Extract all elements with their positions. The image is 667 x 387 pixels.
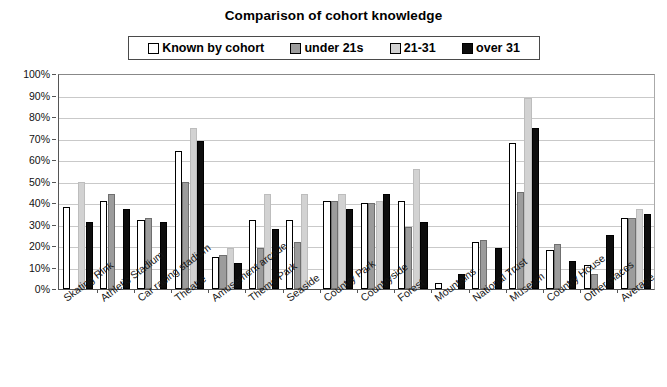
legend-item-label: over 31 [476,41,520,55]
y-axis-tick-label: 10% [29,262,50,274]
chart-title: Comparison of cohort knowledge [0,8,667,23]
y-axis-tick-mark [52,289,56,290]
bar [63,207,70,289]
bar [137,220,144,289]
y-axis-tick-mark [52,182,56,183]
legend-item-2[interactable]: 21-31 [390,41,436,55]
x-axis-tick-mark [506,289,507,293]
bar-group [398,74,430,289]
bar [249,220,256,289]
y-axis-tick-mark [52,117,56,118]
bar [197,141,204,289]
x-axis-labels: Skating RinkAthletic StadiumCar racing s… [0,294,667,387]
chart-legend: Known by cohortunder 21s21-31over 31 [128,36,540,60]
bar [323,201,330,289]
bar [413,169,420,289]
y-axis-tick-label: 30% [29,219,50,231]
x-axis-tick-mark [543,289,544,293]
legend-swatch-icon [462,43,473,54]
y-axis-tick-mark [52,246,56,247]
bar [212,257,219,289]
bar-group [212,74,244,289]
bar [532,128,539,289]
y-axis-tick-label: 90% [29,90,50,102]
y-axis-tick-mark [52,74,56,75]
bar-group [509,74,541,289]
x-axis-tick-mark [97,289,98,293]
y-axis-tick-mark [52,225,56,226]
y-axis-tick-label: 40% [29,197,50,209]
bar-group [435,74,467,289]
legend-item-3[interactable]: over 31 [462,41,520,55]
x-axis-tick-mark [320,289,321,293]
y-axis-tick-mark [52,268,56,269]
y-axis-tick-label: 50% [29,176,50,188]
y-axis-tick-label: 100% [23,68,50,80]
bar-group [621,74,653,289]
legend-item-label: under 21s [304,41,363,55]
legend-swatch-icon [290,43,301,54]
legend-item-label: 21-31 [404,41,436,55]
y-axis-tick-label: 60% [29,154,50,166]
legend-swatch-icon [390,43,401,54]
x-axis-tick-mark [469,289,470,293]
y-axis: 100%90%80%70%60%50%40%30%20%10%0% [6,74,56,290]
legend-item-0[interactable]: Known by cohort [148,41,264,55]
bar-group [472,74,504,289]
bar-group [546,74,578,289]
bar [628,218,635,289]
bar [546,250,553,289]
y-axis-tick-label: 70% [29,133,50,145]
bar [368,203,375,289]
y-axis-tick-mark [52,139,56,140]
y-axis-tick-label: 20% [29,240,50,252]
bar [182,182,189,290]
legend-swatch-icon [148,43,159,54]
bar [331,201,338,289]
y-axis-tick-mark [52,203,56,204]
bar-group [63,74,95,289]
bar [108,194,115,289]
bar [78,182,85,290]
bar-group [361,74,393,289]
legend-item-1[interactable]: under 21s [290,41,363,55]
x-axis-tick-mark [134,289,135,293]
x-axis-tick-mark [283,289,284,293]
bar [517,192,524,289]
bar [621,218,628,289]
bar [405,227,412,289]
y-axis-tick-mark [52,160,56,161]
bar-group [286,74,318,289]
y-axis-tick-mark [52,96,56,97]
y-axis-tick-label: 80% [29,111,50,123]
bar [472,242,479,289]
bar-group [100,74,132,289]
legend-item-label: Known by cohort [162,41,264,55]
bar-chart: Comparison of cohort knowledge Known by … [0,0,667,387]
bar [286,220,293,289]
bar-group [323,74,355,289]
